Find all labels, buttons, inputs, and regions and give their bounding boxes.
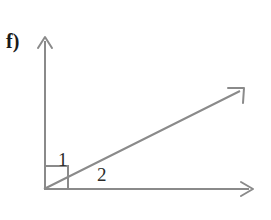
geometry-figure: f) 1 2 — [0, 0, 271, 220]
angle-label-1: 1 — [58, 150, 68, 169]
figure-canvas — [0, 0, 271, 220]
part-label: f) — [6, 31, 19, 51]
angle-label-2: 2 — [97, 165, 107, 184]
horizontal-ray — [44, 182, 253, 196]
diagonal-ray — [44, 88, 244, 189]
